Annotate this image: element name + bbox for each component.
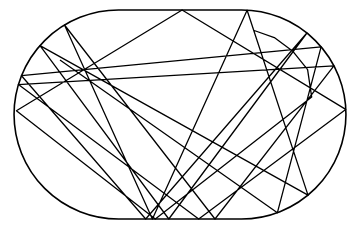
trajectory-path [16,10,345,219]
billiard-trajectory-figure [0,0,360,229]
stadium-billiard-diagram [0,0,360,229]
